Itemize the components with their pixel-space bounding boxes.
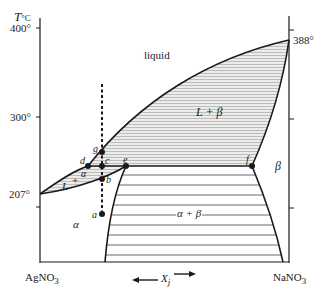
l-plus-beta-region: [88, 40, 289, 166]
label-a: a: [92, 210, 97, 220]
label-f: f: [246, 155, 249, 165]
tick-207: 207°: [9, 189, 30, 200]
label-g: g: [93, 144, 98, 154]
component-agno3: AgNO3: [25, 272, 59, 286]
region-l-alpha-plus: +: [72, 175, 78, 186]
component-nano3: NaNO3: [273, 272, 306, 286]
tick-300: 300°: [10, 112, 31, 123]
region-liquid: liquid: [144, 50, 170, 61]
point-a: [99, 211, 105, 217]
phase-diagram: [0, 0, 324, 294]
region-l-alpha-alpha: α: [81, 169, 86, 179]
label-d: d: [80, 156, 85, 166]
region-alpha-plus-beta: α + β: [176, 208, 202, 219]
label-b: b: [106, 175, 111, 185]
label-e: e: [123, 155, 127, 165]
tick-388: 388°: [293, 35, 314, 46]
point-b: [99, 176, 105, 182]
tick-400: 400°: [10, 23, 31, 34]
point-f: [249, 163, 255, 169]
region-beta: β: [275, 160, 281, 172]
label-c: c: [105, 156, 109, 166]
region-l-alpha-L: L: [62, 181, 68, 192]
x-variable-label: Xj: [161, 273, 170, 287]
region-l-plus-beta: L + β: [196, 106, 223, 118]
region-alpha: α: [73, 219, 79, 230]
